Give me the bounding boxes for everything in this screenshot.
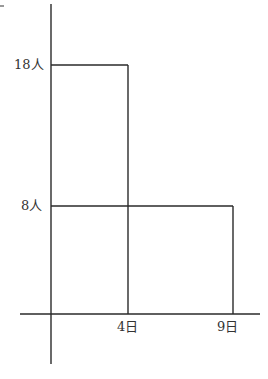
- x-tick-4: 4日: [117, 320, 138, 334]
- x-tick-9: 9日: [217, 320, 238, 334]
- y-tick-8: 8人: [21, 199, 42, 213]
- y-tick-18: 18人: [14, 58, 44, 72]
